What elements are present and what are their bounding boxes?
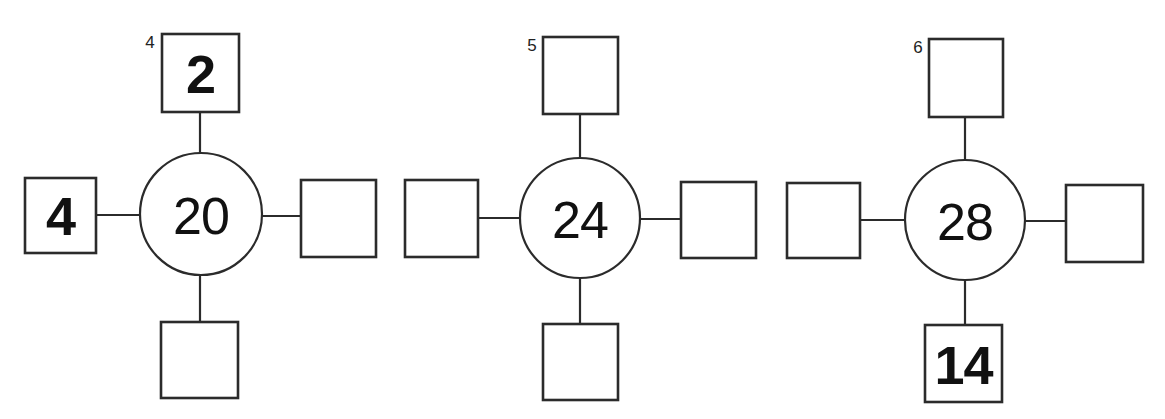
box-bottom-value-3: 14 [934, 335, 993, 395]
box-left-3[interactable] [787, 183, 860, 258]
center-value-3: 28 [937, 193, 993, 251]
item-number-label-3: 6 [913, 38, 922, 57]
box-right-3[interactable] [1066, 185, 1143, 262]
center-value-1: 20 [173, 187, 229, 245]
number-wheel-group-1: 4 2 4 20 [25, 33, 376, 399]
box-bottom-2[interactable] [543, 324, 618, 400]
box-bottom-1[interactable] [161, 322, 238, 398]
box-right-1[interactable] [301, 180, 376, 257]
item-number-label-2: 5 [527, 36, 536, 55]
box-top-2[interactable] [543, 37, 618, 114]
box-left-2[interactable] [405, 180, 478, 257]
box-left-value-1: 4 [46, 186, 76, 246]
number-wheel-group-2: 5 24 [405, 36, 756, 401]
center-value-2: 24 [552, 191, 608, 249]
number-wheel-diagram: 4 2 4 20 5 [0, 0, 1165, 419]
worksheet-page: 4 2 4 20 5 [0, 0, 1165, 419]
number-wheel-group-3: 6 14 28 [787, 38, 1143, 403]
item-number-label-1: 4 [145, 33, 154, 52]
box-right-2[interactable] [681, 182, 756, 258]
box-top-value-1: 2 [186, 44, 215, 104]
box-top-3[interactable] [929, 39, 1003, 117]
